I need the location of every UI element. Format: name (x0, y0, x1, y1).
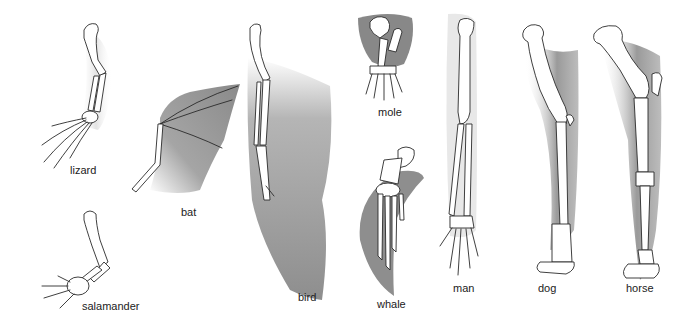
label-man: man (453, 283, 474, 294)
mole-limb (358, 14, 413, 100)
label-bird: bird (298, 292, 316, 303)
label-horse: horse (626, 283, 654, 294)
human-arm (440, 14, 478, 275)
label-dog: dog (538, 283, 556, 294)
lizard-limb (42, 24, 112, 168)
bird-wing (248, 24, 332, 300)
horse-leg (594, 26, 662, 280)
whale-flipper (360, 147, 424, 296)
limb-illustrations (0, 0, 695, 335)
label-salamander: salamander (82, 301, 139, 312)
homologous-limbs-diagram: lizard salamander bat bird mole whale ma… (0, 0, 695, 335)
label-lizard: lizard (70, 165, 96, 176)
label-bat: bat (181, 207, 196, 218)
dog-leg (523, 25, 579, 274)
label-whale: whale (377, 299, 406, 310)
label-mole: mole (378, 107, 402, 118)
bat-wing (132, 84, 240, 193)
salamander-limb (42, 211, 110, 308)
